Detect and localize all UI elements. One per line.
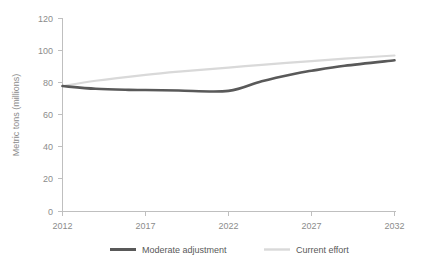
x-tick-label: 2017 xyxy=(135,221,155,231)
series-line-current-effort xyxy=(63,55,395,86)
x-tick-label: 2012 xyxy=(52,221,72,231)
x-tick-marks xyxy=(63,212,395,217)
y-tick-label: 120 xyxy=(38,14,53,24)
y-tick-label: 0 xyxy=(48,207,53,217)
y-tick-label: 20 xyxy=(43,174,53,184)
x-tick-labels: 2012 2017 2022 2027 2032 xyxy=(52,221,404,231)
series-line-moderate-adjustment xyxy=(63,60,395,91)
y-tick-label: 80 xyxy=(43,78,53,88)
y-tick-label: 40 xyxy=(43,142,53,152)
y-tick-marks xyxy=(58,19,63,212)
legend-label-moderate-adjustment: Moderate adjustment xyxy=(142,245,227,255)
y-tick-labels: 120 100 80 60 40 20 0 xyxy=(38,14,53,217)
y-axis-title: Metric tons (millions) xyxy=(11,74,21,157)
line-chart-figure: 120 100 80 60 40 20 0 Metric tons (milli… xyxy=(0,0,427,264)
x-tick-label: 2032 xyxy=(384,221,404,231)
y-tick-label: 100 xyxy=(38,46,53,56)
legend-label-current-effort: Current effort xyxy=(296,245,349,255)
y-tick-label: 60 xyxy=(43,110,53,120)
x-tick-label: 2027 xyxy=(301,221,321,231)
chart-canvas: 120 100 80 60 40 20 0 Metric tons (milli… xyxy=(0,0,427,264)
x-tick-label: 2022 xyxy=(218,221,238,231)
chart-legend: Moderate adjustment Current effort xyxy=(110,245,349,255)
